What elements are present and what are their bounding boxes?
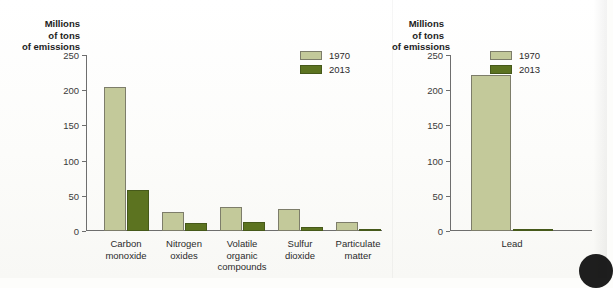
y-axis-tick-label: 100 xyxy=(63,155,79,166)
bar-2013-carbon-monoxide xyxy=(127,190,149,231)
bar-2013-lead xyxy=(513,229,553,231)
y-axis-tick-label: 0 xyxy=(438,226,443,237)
legend-right: 19702013 xyxy=(490,50,540,78)
legend-item-1970: 1970 xyxy=(490,50,540,61)
chart-panel-criteria-pollutants: Millionsof tonsof emissions 050100150200… xyxy=(0,0,392,278)
y-axis-title-line: of tons xyxy=(10,30,80,42)
y-axis-tick-label: 200 xyxy=(427,85,443,96)
bar-1970-nitrogen-oxides xyxy=(162,212,184,231)
y-axis-tick xyxy=(446,125,450,126)
legend-item-1970: 1970 xyxy=(300,50,350,61)
legend-swatch-1970 xyxy=(490,51,512,60)
y-axis-tick-label: 150 xyxy=(63,120,79,131)
y-axis-title-line: of tons xyxy=(392,30,444,42)
bar-group xyxy=(98,55,154,231)
legend-item-2013: 2013 xyxy=(300,64,350,75)
x-axis-category-label-line: Particulate xyxy=(324,238,392,250)
plot-area-right: 050100150200250 xyxy=(450,55,592,231)
legend-item-2013: 2013 xyxy=(490,64,540,75)
y-axis-tick-label: 200 xyxy=(63,85,79,96)
y-axis-title-line: Millions xyxy=(10,18,80,30)
y-axis-tick xyxy=(82,161,86,162)
bar-1970-volatile-organic-compounds xyxy=(220,207,242,231)
y-axis-tick-label: 150 xyxy=(427,120,443,131)
bar-group xyxy=(330,55,386,231)
chart-panel-lead: Millionsof tonsof emissions 050100150200… xyxy=(392,0,607,278)
y-axis-tick xyxy=(446,55,450,56)
bar-2013-particulate-matter xyxy=(359,229,381,231)
y-axis-tick xyxy=(446,231,450,232)
y-axis-tick xyxy=(82,90,86,91)
bar-group xyxy=(480,55,544,231)
legend-swatch-2013 xyxy=(300,65,322,74)
y-axis-title-left: Millionsof tonsof emissions xyxy=(10,18,80,53)
y-axis-tick xyxy=(82,55,86,56)
bar-1970-carbon-monoxide xyxy=(104,87,126,231)
bar-group xyxy=(156,55,212,231)
bar-group xyxy=(214,55,270,231)
y-axis-tick xyxy=(82,196,86,197)
scan-corner-artifact xyxy=(579,254,613,288)
legend-swatch-2013 xyxy=(490,65,512,74)
y-axis-tick xyxy=(446,196,450,197)
y-axis-tick-label: 250 xyxy=(427,50,443,61)
y-axis-title-right: Millionsof tonsof emissions xyxy=(392,18,444,53)
bar-2013-volatile-organic-compounds xyxy=(243,222,265,231)
y-axis-tick-label: 50 xyxy=(68,190,79,201)
x-axis-category-label-line: matter xyxy=(324,250,392,262)
legend-left: 19702013 xyxy=(300,50,350,78)
bar-1970-lead xyxy=(471,75,511,231)
y-axis-tick-label: 50 xyxy=(432,190,443,201)
bar-1970-particulate-matter xyxy=(336,222,358,231)
y-axis-line-left xyxy=(86,55,87,231)
y-axis-title-line: Millions xyxy=(392,18,444,30)
legend-label-2013: 2013 xyxy=(519,64,540,75)
legend-label-2013: 2013 xyxy=(329,64,350,75)
x-axis-category-label: Particulatematter xyxy=(324,238,392,261)
y-axis-tick-label: 0 xyxy=(74,226,79,237)
legend-swatch-1970 xyxy=(300,51,322,60)
y-axis-tick xyxy=(82,125,86,126)
x-axis-category-label-line: Lead xyxy=(474,238,550,250)
bar-group xyxy=(272,55,328,231)
legend-label-1970: 1970 xyxy=(329,50,350,61)
y-axis-tick xyxy=(82,231,86,232)
y-axis-tick xyxy=(446,90,450,91)
bar-1970-sulfur-dioxide xyxy=(278,209,300,231)
x-axis-category-label-line: compounds xyxy=(208,261,276,273)
x-axis-category-label: Lead xyxy=(474,238,550,250)
y-axis-tick-label: 100 xyxy=(427,155,443,166)
y-axis-tick xyxy=(446,161,450,162)
plot-area-left: 050100150200250 xyxy=(86,55,382,231)
y-axis-line-right xyxy=(450,55,451,231)
legend-label-1970: 1970 xyxy=(519,50,540,61)
bar-2013-nitrogen-oxides xyxy=(185,223,207,231)
y-axis-tick-label: 250 xyxy=(63,50,79,61)
bar-2013-sulfur-dioxide xyxy=(301,227,323,231)
